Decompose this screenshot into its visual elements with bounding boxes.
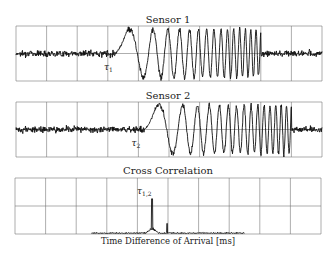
xcorr-x-axis-label: Time Difference of Arrival [ms] bbox=[0, 236, 336, 246]
grid bbox=[15, 178, 321, 234]
cross-correlation-plot: τ1,2 bbox=[0, 0, 336, 255]
tau-1-2-label: τ1,2 bbox=[137, 186, 152, 197]
